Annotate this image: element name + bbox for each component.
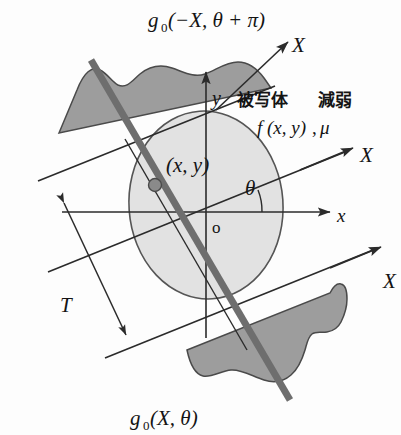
origin-label: o	[212, 218, 221, 237]
sample-point-dot-icon	[149, 179, 162, 192]
x-axis-middle-arrow	[300, 148, 353, 170]
point-label: (x, y)	[166, 153, 209, 177]
theta-label: θ	[245, 176, 255, 200]
attenuation-japanese-label: 減弱	[318, 90, 352, 110]
ct-projection-geometry-figure: g 0 (−X, θ + π) g 0 (X, θ) X X X x y o θ…	[0, 0, 401, 435]
density-separator: ,	[312, 117, 317, 138]
projection-top-base: g	[148, 8, 159, 32]
axis-label-x-middle: X	[359, 143, 374, 167]
object-japanese-label: 被写体	[237, 90, 289, 110]
axis-label-x-upper: X	[291, 33, 306, 57]
axis-label-x-lower: X	[382, 269, 397, 293]
density-function-label: f (x, y) , μ	[257, 117, 330, 139]
projection-bottom-label: g 0 (X, θ)	[130, 406, 198, 433]
projection-bottom-subscript: 0	[143, 418, 150, 433]
x-axis-lower-arrow	[330, 247, 381, 268]
projection-top-args: (−X, θ + π)	[168, 8, 265, 32]
thickness-label: T	[60, 293, 73, 317]
projection-top-subscript: 0	[161, 20, 168, 35]
thickness-dimension-group	[64, 203, 126, 335]
attenuation-symbol-label: μ	[319, 117, 330, 138]
diagram-root: g 0 (−X, θ + π) g 0 (X, θ) X X X x y o θ…	[0, 0, 401, 435]
axis-label-y-cartesian: y	[210, 87, 221, 110]
projection-bottom-base: g	[130, 406, 141, 430]
axis-label-x-cartesian: x	[336, 205, 346, 226]
thickness-dimension-arrow	[64, 203, 126, 335]
projection-top-label: g 0 (−X, θ + π)	[148, 8, 265, 35]
projection-bottom-args: (X, θ)	[150, 406, 198, 430]
density-function-expression: f (x, y)	[257, 117, 306, 139]
